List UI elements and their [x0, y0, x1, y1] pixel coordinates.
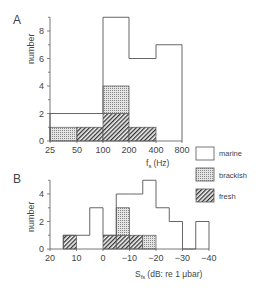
y-tick-label: 4	[39, 81, 44, 91]
panel-a: A number 024682550100200400800 fs(Hz)	[13, 13, 190, 169]
x-tick-label: 800	[174, 145, 189, 155]
x-tick-label: 20	[45, 253, 55, 263]
bar-fresh	[103, 114, 129, 142]
legend: marine brackish fresh	[196, 147, 247, 202]
x-tick-label: 200	[121, 145, 136, 155]
panel-b: B number 02420100−10−20−30−40 Sfs(dB: re…	[13, 172, 217, 280]
x-tick-label: −30	[175, 253, 190, 263]
legend-label-fresh: fresh	[219, 192, 236, 201]
bars-a	[50, 17, 182, 141]
bar-fresh	[103, 235, 116, 249]
y-tick-label: 8	[39, 26, 44, 36]
bar-fresh	[130, 235, 143, 249]
x-tick-label: 400	[148, 145, 163, 155]
bar-brackish	[50, 127, 77, 141]
bar-fresh	[77, 127, 103, 141]
x-tick-label: 10	[71, 253, 81, 263]
y-axis-label-b: number	[26, 201, 36, 232]
figure: A number 024682550100200400800 fs(Hz) ma…	[0, 0, 262, 291]
bar-brackish	[116, 208, 129, 236]
x-tick-label: 50	[72, 145, 82, 155]
legend-item-marine: marine	[196, 147, 242, 160]
x-axis-label-b: Sfs(dB: re 1 μbar)	[135, 269, 202, 280]
x-axis-label-a: fs(Hz)	[146, 158, 170, 169]
bar-fresh	[63, 235, 76, 249]
legend-swatch-marine	[196, 147, 214, 160]
y-tick-label: 0	[39, 244, 44, 254]
bar-brackish	[103, 86, 129, 114]
legend-swatch-fresh	[196, 189, 214, 202]
y-tick-label: 4	[39, 189, 44, 199]
bar-fresh	[129, 127, 156, 141]
bar-fresh	[116, 235, 129, 249]
legend-item-brackish: brackish	[196, 168, 247, 181]
legend-label-marine: marine	[219, 149, 242, 158]
y-axis-label-a: number	[26, 33, 36, 64]
y-tick-label: 2	[39, 109, 44, 119]
legend-item-fresh: fresh	[196, 189, 236, 202]
y-tick-label: 0	[39, 136, 44, 146]
panel-label-a: A	[13, 13, 21, 27]
x-tick-label: 100	[95, 145, 110, 155]
legend-label-brackish: brackish	[219, 171, 247, 180]
panel-label-b: B	[13, 172, 21, 186]
legend-swatch-brackish	[196, 168, 214, 181]
x-tick-label: 0	[100, 253, 105, 263]
y-tick-label: 6	[39, 54, 44, 64]
y-tick-label: 2	[39, 217, 44, 227]
bar-brackish	[143, 235, 156, 249]
x-tick-label: −10	[122, 253, 137, 263]
x-tick-label: −20	[148, 253, 163, 263]
x-tick-label: 25	[45, 145, 55, 155]
bars-b	[63, 180, 209, 249]
x-tick-label: −40	[201, 253, 216, 263]
